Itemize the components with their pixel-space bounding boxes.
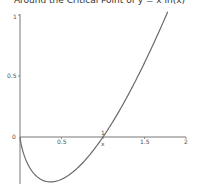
x-tick-label-2: 2 [184, 138, 188, 145]
y-tick-label-0: 0 [12, 133, 16, 140]
plot-area: 1 0.5 0 0.5 1 x 1.5 2 [0, 0, 199, 196]
y-tick-label-1: 1 [13, 13, 17, 20]
x-tick-label-0-5: 0.5 [57, 138, 67, 145]
x-tick-label-1-5: 1.5 [140, 138, 150, 145]
y-tick-label-0-5: 0.5 [7, 72, 17, 79]
function-curve [20, 12, 168, 182]
x-axis-name: x [101, 140, 105, 147]
